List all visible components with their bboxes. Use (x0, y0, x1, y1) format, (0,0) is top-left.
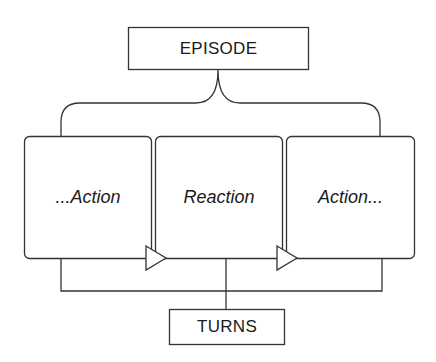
episode-label: EPISODE (128, 27, 309, 70)
turn-label-2: Reaction (155, 136, 283, 259)
turn-label-1: ...Action (24, 136, 152, 259)
turns-label: TURNS (169, 309, 285, 345)
turn-label-3: Action... (286, 136, 415, 259)
episode-brace (61, 70, 380, 136)
turns-bracket (61, 258, 382, 291)
